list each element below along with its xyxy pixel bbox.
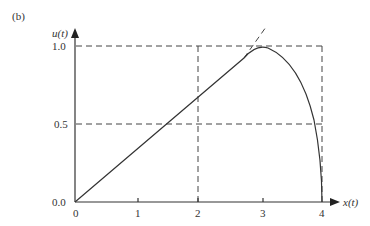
tangent-extension [244,27,266,58]
y-axis-arrow-icon [71,28,79,38]
x-tick-label: 4 [319,207,325,219]
y-axis-label: u(t) [52,27,68,40]
x-tick-label: 2 [195,207,201,219]
x-tick-label: 3 [260,207,266,219]
x-axis-label: x(t) [342,196,359,209]
y-tick-label: 0.5 [54,118,68,130]
y-tick-label: 1.0 [52,40,66,52]
x-axis-arrow-icon [330,198,340,206]
x-tick-label: 1 [135,207,141,219]
y-tick-label: 0.0 [52,196,66,208]
x-tick-label: 0 [73,207,79,219]
panel-label: (b) [12,10,25,23]
chart: (b) 1.0 0.5 0.0 0 1 2 3 4 u(t) x(t) [0,0,370,226]
